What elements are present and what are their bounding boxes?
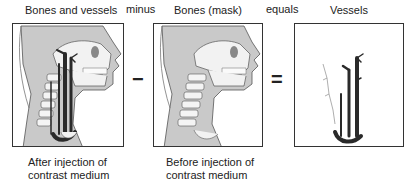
- caption-before-injection: Before injection of contrast medium: [166, 156, 254, 182]
- caption-before-line2: contrast medium: [166, 169, 254, 182]
- caption-after-injection: After injection of contrast medium: [28, 156, 109, 182]
- panel-title-vessels: Vessels: [330, 4, 368, 16]
- panel-vessels: [294, 23, 404, 147]
- panel-title-bones-and-vessels: Bones and vessels: [25, 4, 117, 16]
- panel-bones-mask: [153, 23, 263, 147]
- panel-title-bones-mask: Bones (mask): [174, 4, 242, 16]
- panel-bones-and-vessels: [12, 23, 124, 147]
- caption-after-line1: After injection of: [28, 156, 109, 169]
- minus-operator-symbol: −: [132, 68, 144, 91]
- head-neck-bones-illustration: [154, 24, 263, 147]
- equals-operator-symbol: =: [271, 68, 283, 91]
- operator-word-equals: equals: [266, 3, 298, 15]
- operator-word-minus: minus: [126, 3, 155, 15]
- vessels-only-illustration: [295, 24, 404, 147]
- caption-before-line1: Before injection of: [166, 156, 254, 169]
- head-neck-with-vessels-illustration: [13, 24, 124, 147]
- caption-after-line2: contrast medium: [28, 169, 109, 182]
